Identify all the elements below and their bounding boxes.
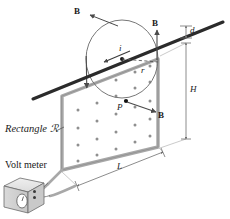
label-height-h: H <box>190 85 197 94</box>
field-dot <box>115 79 118 82</box>
field-dot <box>134 87 137 90</box>
diagram-canvas <box>0 0 230 219</box>
label-point-p: P <box>117 103 123 112</box>
label-length-l: L <box>117 162 122 171</box>
label-b-topright: B <box>152 19 158 28</box>
dimension-h-ext-bottom <box>160 139 186 148</box>
field-dot <box>134 106 137 109</box>
field-dot <box>149 135 152 138</box>
field-dot <box>96 102 99 105</box>
field-dot <box>134 141 137 144</box>
field-dot <box>96 138 99 141</box>
dimension-h <box>160 43 191 148</box>
lead-wire-lower <box>50 186 75 196</box>
label-current-i: i <box>119 44 122 53</box>
label-volt-meter: Volt meter <box>5 160 47 170</box>
lead-wire-upper <box>48 170 62 184</box>
field-dot <box>96 120 99 123</box>
label-distance-d: d <box>190 26 195 35</box>
field-dot <box>115 148 118 151</box>
rectangle-loop <box>62 59 158 170</box>
field-dots-group <box>77 65 152 163</box>
field-dot <box>149 65 152 68</box>
label-rectangle: Rectangle ℛ <box>5 124 58 135</box>
b-circulation-arrow-left <box>86 56 87 88</box>
loop-outline-inner <box>62 59 158 170</box>
dimension-l <box>62 148 165 191</box>
field-dot <box>77 144 80 147</box>
field-dot <box>149 118 152 121</box>
b-arrow-at-p <box>127 102 156 112</box>
field-dot <box>77 127 80 130</box>
meter-terminal-top <box>33 190 36 193</box>
loop-outline <box>62 59 158 170</box>
field-dot <box>149 100 152 103</box>
label-b-at-p: B <box>158 111 164 120</box>
label-b-topleft: B <box>74 7 80 16</box>
field-dot <box>134 71 137 74</box>
meter-terminal-bottom <box>33 196 36 199</box>
field-dot <box>115 131 118 134</box>
label-radius-r: r <box>141 66 145 75</box>
field-dot <box>77 160 80 163</box>
field-dot <box>77 109 80 112</box>
field-dot <box>96 154 99 157</box>
dimension-l-ext-left <box>62 172 77 186</box>
physics-diagram-figure: B B B i r P d H L Rectangle ℛ Volt meter <box>0 0 230 219</box>
volt-meter-box <box>4 178 44 213</box>
field-dot <box>134 124 137 127</box>
field-dot <box>115 113 118 116</box>
